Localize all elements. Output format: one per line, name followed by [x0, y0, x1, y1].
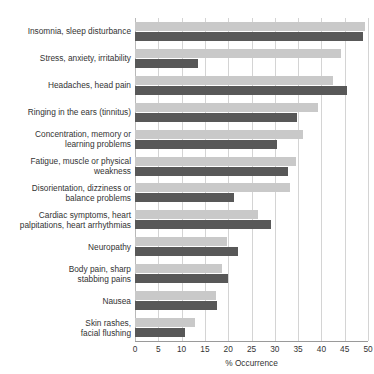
category-label: Stress, anxiety, irritability — [0, 53, 131, 63]
bar — [135, 140, 277, 149]
x-tick-label: 10 — [177, 344, 186, 354]
bar — [135, 22, 365, 31]
bar — [135, 59, 198, 68]
x-axis-title: % Occurrence — [135, 358, 368, 368]
bar — [135, 328, 185, 337]
x-axis-line — [135, 341, 368, 342]
bar-group — [135, 291, 368, 310]
bar — [135, 113, 297, 122]
bar — [135, 210, 258, 219]
category-label: Concentration, memory or learning proble… — [0, 129, 131, 149]
x-tick-label: 15 — [200, 344, 209, 354]
bar-group — [135, 264, 368, 283]
bar — [135, 183, 290, 192]
chart-figure: in Australia and the USA Insomnia, sleep… — [0, 0, 374, 374]
bar — [135, 32, 363, 41]
x-tick-label: 40 — [317, 344, 326, 354]
x-tick-label: 35 — [293, 344, 302, 354]
x-tick-label: 5 — [156, 344, 161, 354]
category-label: Cardiac symptoms, heart palpitations, he… — [0, 210, 131, 230]
bar — [135, 86, 347, 95]
bar — [135, 264, 222, 273]
bars-layer — [135, 18, 368, 341]
bar-group — [135, 49, 368, 68]
category-label: Insomnia, sleep disturbance — [0, 26, 131, 36]
category-label: Headaches, head pain — [0, 80, 131, 90]
bar — [135, 291, 216, 300]
bar — [135, 220, 271, 229]
bar — [135, 301, 217, 310]
x-tick-label: 45 — [340, 344, 349, 354]
bar — [135, 76, 333, 85]
bar-group — [135, 183, 368, 202]
bar — [135, 103, 318, 112]
category-axis-labels: Insomnia, sleep disturbanceStress, anxie… — [0, 18, 131, 341]
category-label: Ringing in the ears (tinnitus) — [0, 107, 131, 117]
category-label: Disorientation, dizziness or balance pro… — [0, 183, 131, 203]
bar — [135, 130, 303, 139]
bar — [135, 318, 195, 327]
bar — [135, 237, 227, 246]
bar-group — [135, 318, 368, 337]
bar-group — [135, 22, 368, 41]
x-tick-label: 0 — [133, 344, 138, 354]
bar — [135, 247, 238, 256]
category-label: Nausea — [0, 296, 131, 306]
bar — [135, 193, 234, 202]
bar-group — [135, 157, 368, 176]
bar-group — [135, 237, 368, 256]
bar-group — [135, 76, 368, 95]
category-label: Neuropathy — [0, 242, 131, 252]
chart-title: in Australia and the USA — [0, 0, 374, 2]
category-label: Skin rashes, facial flushing — [0, 318, 131, 338]
x-tick-label: 20 — [224, 344, 233, 354]
bar — [135, 167, 288, 176]
category-label: Fatigue, muscle or physical weakness — [0, 156, 131, 176]
bar-group — [135, 103, 368, 122]
bar-group — [135, 130, 368, 149]
x-axis-tick-labels: 05101520253035404550 — [135, 344, 368, 356]
x-tick-label: 25 — [247, 344, 256, 354]
bar-group — [135, 210, 368, 229]
bar — [135, 49, 341, 58]
plot-area — [135, 18, 368, 341]
category-label: Body pain, sharp stabbing pains — [0, 264, 131, 284]
bar — [135, 274, 228, 283]
x-tick-label: 30 — [270, 344, 279, 354]
bar — [135, 157, 296, 166]
x-tick-label: 50 — [363, 344, 372, 354]
gridline — [368, 18, 369, 341]
